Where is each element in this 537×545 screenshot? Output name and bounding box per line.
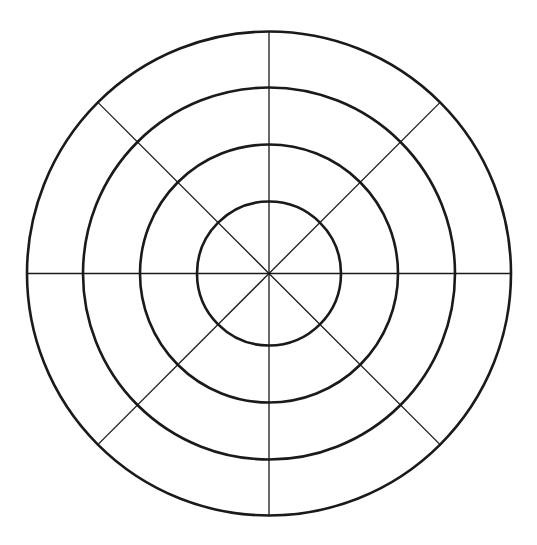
spoke-line	[269, 274, 440, 445]
polar-grid-diagram	[0, 0, 537, 545]
spoke-line	[269, 102, 440, 273]
spoke-line	[98, 102, 269, 273]
spoke-line	[98, 274, 269, 445]
